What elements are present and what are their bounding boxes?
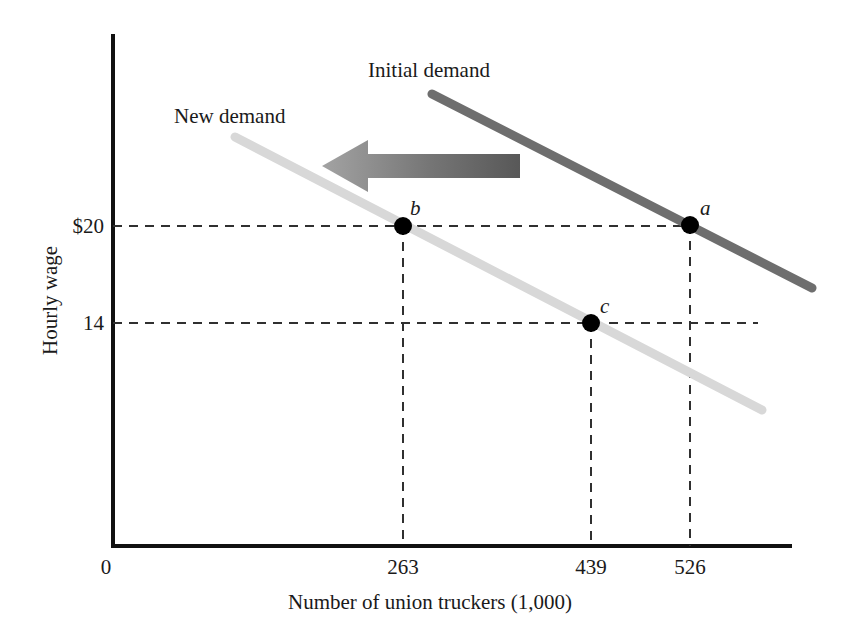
- point-label-b: b: [410, 198, 421, 219]
- x-tick-label-263: 263: [387, 557, 419, 578]
- chart-canvas: [0, 0, 843, 628]
- y-tick-label-14: 14: [83, 313, 104, 334]
- x-axis-title: Number of union truckers (1,000): [288, 592, 572, 613]
- x-tick-label-0: 0: [101, 557, 112, 578]
- economics-demand-shift-chart: a b c Initial demand New demand $20 14 0…: [0, 0, 843, 628]
- new-demand-label: New demand: [174, 106, 285, 127]
- initial-demand-line: [432, 94, 812, 288]
- initial-demand-label: Initial demand: [368, 60, 490, 81]
- point-c-marker: [582, 314, 600, 332]
- guide-lines-group: [113, 225, 758, 546]
- y-tick-label-20: $20: [73, 216, 105, 237]
- demand-curves-group: [235, 94, 812, 410]
- point-label-c: c: [600, 296, 609, 317]
- point-label-a: a: [700, 198, 711, 219]
- y-axis-title: Hourly wage: [40, 246, 61, 355]
- annotated-points-group: [394, 216, 699, 332]
- point-a-marker: [681, 216, 699, 234]
- x-tick-label-526: 526: [674, 557, 706, 578]
- x-tick-label-439: 439: [575, 557, 607, 578]
- shift-arrow-icon: [322, 140, 520, 192]
